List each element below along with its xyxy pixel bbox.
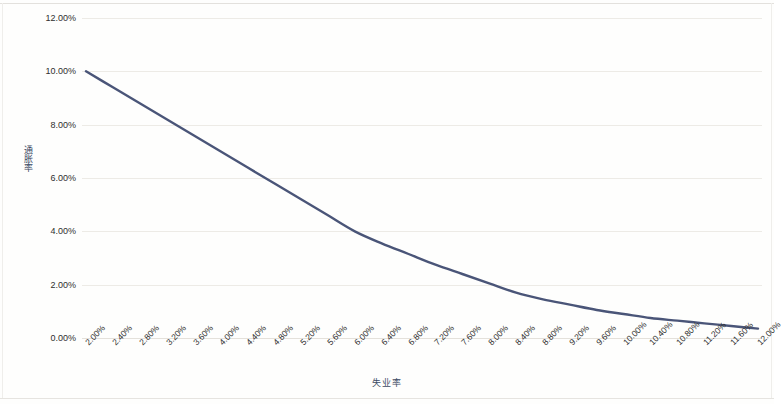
y-tick-label: 10.00% xyxy=(30,66,76,76)
x-axis-title: 失业率 xyxy=(0,376,774,389)
y-tick-label: 8.00% xyxy=(30,120,76,130)
chart-frame-right-border xyxy=(771,3,772,398)
chart-frame-bottom-border xyxy=(0,398,774,399)
plot-area xyxy=(82,18,762,338)
y-tick-label: 0.00% xyxy=(30,333,76,343)
y-tick-label: 4.00% xyxy=(30,226,76,236)
y-tick-label: 6.00% xyxy=(30,173,76,183)
chart-frame-top-border xyxy=(0,3,774,4)
y-tick-label: 12.00% xyxy=(30,13,76,23)
inflation-unemployment-line-series xyxy=(82,18,762,338)
y-tick-label: 2.00% xyxy=(30,280,76,290)
curve-path xyxy=(86,71,758,328)
y-axis-tick-labels: 0.00%2.00%4.00%6.00%8.00%10.00%12.00% xyxy=(0,0,76,404)
